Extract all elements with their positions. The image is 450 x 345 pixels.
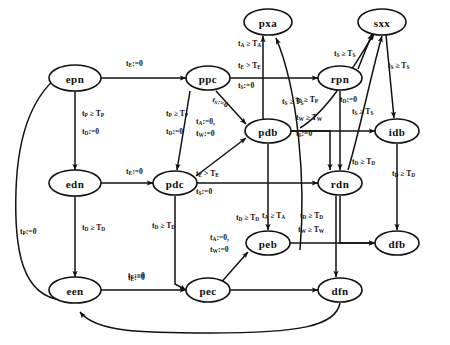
node-sxx[interactable]: sxx	[358, 9, 406, 35]
node-edn-label: edn	[66, 178, 84, 190]
edge-label-rpn-rdn-cond: tP ≥ TP	[296, 96, 318, 104]
node-dfn[interactable]: dfn	[318, 278, 362, 302]
node-dfn-label: dfn	[331, 285, 348, 297]
node-peb[interactable]: peb	[246, 231, 290, 255]
edge-label-rdn-sxx: tD ≥ TD	[352, 158, 375, 166]
node-ppc[interactable]: ppc	[186, 66, 230, 90]
node-pdc[interactable]: pdc	[153, 171, 197, 195]
node-layer: epn ppc pxa sxx rpn pdb	[49, 9, 419, 303]
edge-label-ppc-pdc-reset: tD:=0	[166, 128, 183, 136]
node-dfb[interactable]: dfb	[375, 231, 419, 255]
node-ppc-label: ppc	[199, 73, 217, 85]
diagram-canvas: epn ppc pxa sxx rpn pdb	[0, 0, 450, 345]
node-pec-label: pec	[199, 285, 216, 297]
edge-label-ppc-pdb-reset-b: tW:=0	[196, 130, 215, 138]
edge-label-pdc-rdn-reset: tS:=0	[196, 188, 212, 196]
edge-pdc-pec	[175, 196, 186, 290]
edge-label-ppc-rpn-reset: tS:=0	[238, 82, 254, 90]
edge-label-edn-pdc: tE:=0	[126, 168, 143, 176]
edge-label-sxx-idb: tS ≥ TS	[388, 62, 409, 70]
edge-label-pdc-rdn-cond: tE > TE	[196, 170, 219, 178]
edge-label-pdb-rdn-reset: tS:=0	[296, 130, 312, 138]
node-een[interactable]: een	[49, 277, 101, 303]
edge-label-rpn-rdn-reset: tD:=0	[340, 96, 357, 104]
node-epn-label: epn	[66, 73, 84, 85]
edge-label-pdb-pxa: tA ≥ TA	[262, 212, 285, 220]
edge-label-rdn-dfb: tD ≥ TD	[300, 212, 323, 220]
edge-rpn-sxx	[358, 34, 372, 69]
node-pdc-label: pdc	[166, 178, 184, 190]
node-idb[interactable]: idb	[375, 119, 419, 143]
edge-label-pdb-peb: tD ≥ TD	[236, 214, 259, 222]
edge-label-pdc-pec: tD ≥ TD	[152, 222, 175, 230]
edge-label-peb-dfb: tW ≥ TW	[298, 226, 324, 234]
edge-label-ppc-pdc-cond: tP ≥ TP	[166, 110, 188, 118]
node-rpn[interactable]: rpn	[318, 66, 362, 90]
node-pec[interactable]: pec	[186, 278, 230, 302]
edge-label-pdb-rdn-cond: tW ≥ TW	[296, 114, 322, 122]
diagram-graphics: epn ppc pxa sxx rpn pdb	[0, 0, 450, 345]
edge-dfn-een	[80, 303, 340, 333]
node-epn[interactable]: epn	[49, 65, 101, 91]
edge-label-ppc-pxa: tA ≥ TA	[238, 40, 261, 48]
edge-label-pdb-idb: tS ≥ TS	[352, 108, 373, 116]
edge-label-rpn-sxx: tS ≥ TS	[334, 50, 355, 58]
edge-label-epn-ppc: tE:=0	[126, 60, 143, 68]
edge-rdn-dfb	[340, 196, 375, 243]
node-edn[interactable]: edn	[49, 170, 101, 196]
node-pxa[interactable]: pxa	[244, 9, 292, 35]
edge-label-een-epn: tP:=0	[20, 228, 36, 236]
edge-label-ppc-rpn-cond: tE > TE	[238, 62, 261, 70]
node-dfb-label: dfb	[388, 238, 405, 250]
edge-label-ppc-pdb-reset-a: tA:=0,	[196, 118, 215, 126]
edge-label-epn-edn-cond: tP ≥ TP	[82, 110, 104, 118]
node-rdn-label: rdn	[331, 178, 349, 190]
edge-label-idb-dfb: tD ≥ TD	[392, 170, 415, 178]
edge-label-peb-pec-a: tA:=0,	[210, 234, 229, 242]
edge-label-edn-een: tD ≥ TD	[82, 224, 105, 232]
edge-label-peb-pec-b: tW:=0	[210, 246, 229, 254]
node-pdb-label: pdb	[258, 126, 278, 138]
node-een-label: een	[66, 285, 83, 297]
node-peb-label: peb	[259, 238, 277, 250]
edge-sxx-idb	[386, 35, 394, 118]
node-sxx-label: sxx	[374, 17, 391, 29]
node-idb-label: idb	[389, 126, 406, 138]
edge-label-epn-edn-reset: tD:=0	[82, 128, 99, 136]
edge-label-pec-dfn-dup: tE:=0	[128, 272, 145, 280]
node-pdb[interactable]: pdb	[245, 119, 291, 143]
node-rpn-label: rpn	[331, 73, 349, 85]
node-pxa-label: pxa	[259, 17, 277, 29]
node-rdn[interactable]: rdn	[318, 171, 362, 195]
